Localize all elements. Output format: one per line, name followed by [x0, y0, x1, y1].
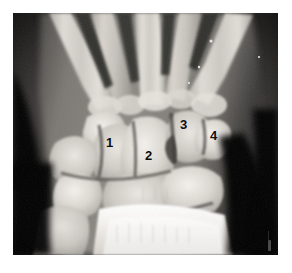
annotation-label-1: 1	[106, 136, 113, 149]
page-root: 1 2 3 4	[0, 0, 292, 273]
annotation-label-3: 3	[180, 118, 187, 131]
film-side-marker	[268, 240, 271, 251]
annotation-label-4: 4	[210, 129, 217, 142]
xray-image-canvas	[13, 13, 278, 255]
annotation-label-2: 2	[145, 149, 152, 162]
xray-radiograph-figure	[13, 13, 278, 255]
